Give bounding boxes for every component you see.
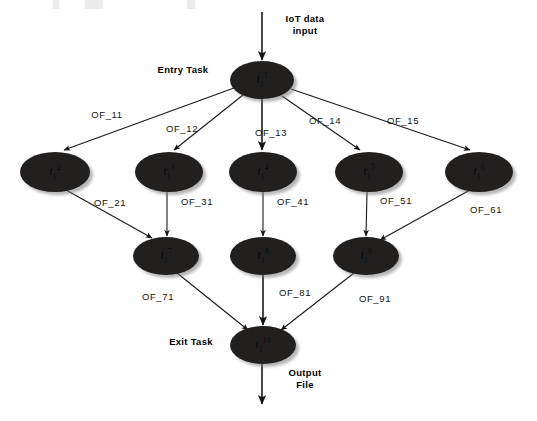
edge-e_51 <box>366 192 367 236</box>
task-node-label-t3: t13 <box>163 164 175 181</box>
entry-task-annotation: Entry Task <box>158 64 209 76</box>
edge-e_11 <box>64 88 234 150</box>
task-node-label-t4: t14 <box>257 164 269 181</box>
edge-e_91 <box>281 273 354 330</box>
exit-task-annotation: Exit Task <box>169 336 213 348</box>
task-node-t10[interactable]: t110 <box>230 326 296 364</box>
edge-label-e_15: OF_15 <box>387 115 419 126</box>
task-node-label-t9: t19 <box>360 248 372 265</box>
task-node-label-t7: t17 <box>160 248 172 265</box>
task-node-label-t8: t18 <box>257 248 269 265</box>
task-node-label-t5: t15 <box>363 164 375 181</box>
task-node-t2[interactable]: t12 <box>20 152 90 192</box>
edge-label-e_13: OF_13 <box>255 127 287 138</box>
task-node-t4[interactable]: t14 <box>229 152 297 192</box>
task-node-t3[interactable]: t13 <box>135 152 203 192</box>
task-node-t1[interactable]: t11 <box>230 61 294 99</box>
edge-label-e_41: OF_41 <box>277 196 309 207</box>
edge-label-e_91: OF_91 <box>359 293 391 304</box>
input-annotation: IoT data input <box>286 13 325 37</box>
edge-label-e_81: OF_81 <box>279 287 311 298</box>
edge-label-e_51: OF_51 <box>380 195 412 206</box>
diagram-canvas: t11t12t13t14t15t16t17t18t19t110 OF_11OF_… <box>0 0 537 421</box>
task-node-t8[interactable]: t18 <box>230 237 296 275</box>
task-node-label-t6: t16 <box>473 164 485 181</box>
edge-label-e_14: OF_14 <box>309 115 341 126</box>
edge-label-e_61: OF_61 <box>470 204 502 215</box>
task-node-label-t1: t11 <box>256 72 268 89</box>
edge-label-e_12: OF_12 <box>166 123 198 134</box>
task-node-t5[interactable]: t15 <box>335 152 403 192</box>
task-node-label-t10: t110 <box>255 337 271 354</box>
edge-e_71 <box>177 273 248 330</box>
edge-label-e_11: OF_11 <box>91 109 122 120</box>
task-node-t6[interactable]: t16 <box>445 152 513 192</box>
edge-label-e_21: OF_21 <box>94 197 126 208</box>
output-annotation: Output File <box>289 367 322 391</box>
edge-label-e_31: OF_31 <box>181 196 213 207</box>
edge-label-e_71: OF_71 <box>142 291 174 302</box>
task-node-label-t2: t12 <box>49 164 61 181</box>
task-node-t7[interactable]: t17 <box>133 237 199 275</box>
task-node-t9[interactable]: t19 <box>333 237 399 275</box>
